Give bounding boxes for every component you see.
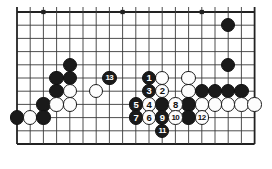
move-number-label: 9	[160, 112, 165, 122]
move-number-label: 7	[133, 112, 138, 122]
move-stone-13: 13	[102, 71, 116, 85]
black-stone	[36, 110, 50, 124]
white-stone	[63, 97, 77, 111]
star-point	[200, 10, 204, 14]
black-stone	[181, 110, 195, 124]
move-number-label: 2	[160, 86, 165, 96]
star-point	[121, 10, 125, 14]
move-stone-12: 12	[195, 110, 209, 124]
move-number-label: 4	[147, 99, 152, 109]
go-diagram: 13132548769101211	[0, 0, 272, 169]
move-number-label: 10	[171, 113, 179, 121]
move-number-label: 12	[198, 113, 206, 121]
move-number-label: 1	[147, 73, 152, 83]
move-stone-7: 7	[129, 110, 143, 124]
white-stone	[49, 97, 63, 111]
move-number-label: 13	[105, 73, 113, 81]
star-point	[41, 10, 45, 14]
move-number-label: 5	[133, 99, 138, 109]
move-number-label: 11	[158, 126, 165, 134]
move-number-label: 6	[147, 112, 152, 122]
white-stone	[247, 97, 261, 111]
move-stone-10: 10	[168, 110, 182, 124]
move-number-label: 8	[173, 99, 178, 109]
black-stone	[63, 58, 77, 72]
move-number-label: 3	[147, 86, 152, 96]
